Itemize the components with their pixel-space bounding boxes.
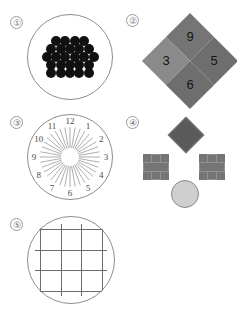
panel-shape-set: ④ — [126, 112, 236, 210]
panel-numbered-diamonds: ② 9 3 5 6 — [126, 10, 236, 106]
clock-number: 1 — [82, 121, 94, 131]
clock-number: 8 — [33, 170, 45, 180]
clock-number: 12 — [64, 116, 76, 126]
cluster-dot — [74, 68, 84, 78]
clock-number: 10 — [33, 134, 45, 144]
panel-dot-cluster: ① — [10, 12, 120, 104]
panel-marker-2: ② — [126, 14, 139, 27]
shape-circle — [171, 180, 199, 208]
worksheet-page: ① ② 9 3 5 6 ③ 121234567891011 ④ — [0, 0, 237, 310]
clock-number: 5 — [82, 183, 94, 193]
grid-line-horizontal — [35, 229, 107, 230]
shape-diamond — [168, 117, 205, 154]
shape-cross-left — [143, 154, 169, 180]
clock-number: 6 — [64, 188, 76, 198]
panel-grid-in-circle: ⑤ — [10, 214, 125, 308]
diamond-bottom-label: 6 — [173, 68, 207, 102]
clock-number: 3 — [100, 152, 112, 162]
cluster-dot — [84, 68, 94, 78]
panel-marker-1: ① — [10, 16, 23, 29]
shape-cross-right — [199, 154, 225, 180]
panel-marker-4: ④ — [126, 116, 139, 129]
diamond-bottom: 6 — [166, 61, 214, 109]
panel-clock-sunburst: ③ 121234567891011 — [10, 112, 120, 210]
clock-number: 4 — [95, 170, 107, 180]
cluster-dot — [46, 68, 56, 78]
grid-line-horizontal — [35, 250, 107, 251]
clock-number: 9 — [28, 152, 40, 162]
grid-line-horizontal — [35, 270, 107, 271]
clock-number: 11 — [46, 121, 58, 131]
grid-line-vertical — [102, 224, 103, 296]
clock-number: 2 — [95, 134, 107, 144]
grid-lines-group — [27, 216, 115, 304]
panel-marker-3: ③ — [10, 116, 23, 129]
panel-marker-5: ⑤ — [10, 218, 23, 231]
grid-line-vertical — [81, 224, 82, 296]
grid-line-vertical — [61, 224, 62, 296]
clock-number: 7 — [46, 183, 58, 193]
grid-line-horizontal — [35, 291, 107, 292]
grid-line-vertical — [40, 224, 41, 296]
